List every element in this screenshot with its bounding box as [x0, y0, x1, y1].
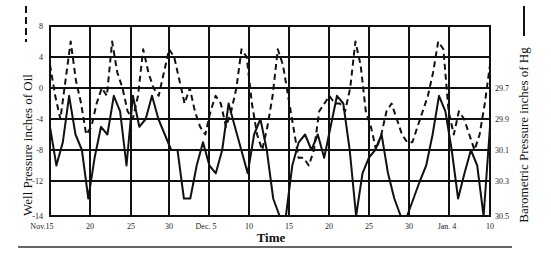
x-tick: 10 — [486, 222, 494, 231]
x-tick: 20 — [325, 222, 333, 231]
x-tick: 30 — [405, 222, 413, 231]
left-tick: -8 — [36, 146, 43, 155]
pressure-chart: 8 4 0 -4 -8 -12 -14 29.7 29.9 30.1 30.3 … — [0, 0, 551, 254]
left-tick: 8 — [39, 22, 43, 31]
left-axis-title: Well Pressure inches of Oil — [20, 74, 35, 216]
right-tick: 30.1 — [495, 146, 509, 155]
x-tick: 25 — [365, 222, 373, 231]
x-tick: Dec. 5 — [196, 222, 217, 231]
right-axis-ticks: 29.7 29.9 30.1 30.3 30.5 — [495, 84, 509, 221]
left-tick: 0 — [39, 84, 43, 93]
x-tick: 20 — [86, 222, 94, 231]
x-tick: Jan. 4 — [438, 222, 457, 231]
right-tick: 29.9 — [495, 115, 509, 124]
right-tick: 30.5 — [495, 212, 509, 221]
x-tick: 10 — [245, 222, 253, 231]
right-tick: 30.3 — [495, 177, 509, 186]
plot-grid — [50, 26, 490, 216]
x-tick: 30 — [165, 222, 173, 231]
right-tick: 29.7 — [495, 84, 509, 93]
x-tick: Nov.15 — [30, 222, 53, 231]
x-tick: 25 — [127, 222, 135, 231]
x-axis-title: Time — [257, 230, 286, 245]
right-axis-title: Barometric Pressure inches of Hg — [516, 47, 531, 223]
left-tick: 4 — [39, 53, 43, 62]
left-tick: -4 — [36, 115, 43, 124]
x-tick: 15 — [285, 222, 293, 231]
